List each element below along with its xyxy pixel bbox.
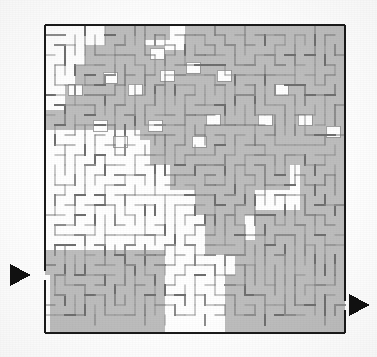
white-pocket bbox=[160, 70, 174, 81]
white-pocket bbox=[206, 114, 220, 125]
shaded-region bbox=[145, 25, 170, 40]
white-pocket bbox=[186, 62, 200, 73]
page-root bbox=[0, 0, 377, 357]
shaded-region bbox=[50, 275, 165, 333]
maze-canvas bbox=[0, 0, 377, 357]
maze-figure bbox=[0, 0, 377, 357]
white-pocket bbox=[150, 48, 164, 59]
white-pocket bbox=[217, 70, 231, 81]
white-pocket bbox=[192, 136, 206, 147]
shaded-region bbox=[45, 110, 140, 130]
shaded-region bbox=[150, 140, 345, 165]
shaded-region bbox=[195, 190, 255, 215]
white-pocket bbox=[258, 114, 272, 125]
shaded-region bbox=[170, 165, 290, 190]
